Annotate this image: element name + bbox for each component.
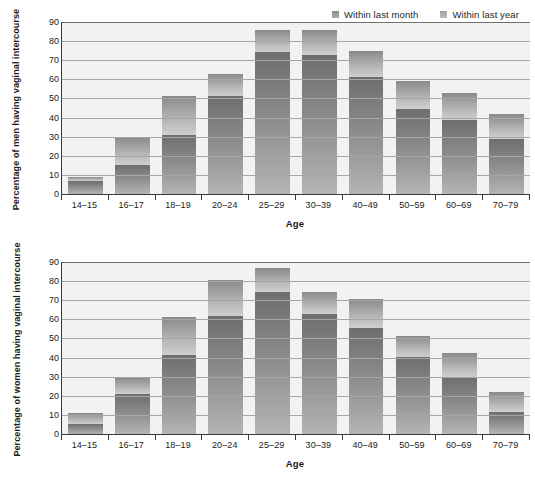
stacked-bar [489,114,524,194]
chart-panel-men: Percentage of men having vaginal interco… [0,22,535,252]
x-axis-tick-labels-men: 14–1516–1718–1920–2425–2930–3940–4950–59… [61,200,529,210]
bar-segment-within-last-month [489,139,524,194]
bar-segment-within-last-year [208,74,243,96]
bar-slot [249,22,296,194]
y-tick-60: 60 [34,75,59,84]
gridline-60 [62,79,530,80]
y-tick-30: 30 [34,132,59,141]
bar-segment-within-last-year [302,30,337,56]
bar-segment-within-last-month [349,328,384,434]
y-tick-10: 10 [34,410,59,419]
bar-segment-within-last-year [396,81,431,109]
bar-slot [202,262,249,434]
stacked-bar [68,177,103,194]
x-tick [529,195,530,200]
bar-slot [202,22,249,194]
stacked-bar [302,30,337,194]
x-tick-label: 70–79 [482,440,529,450]
y-tick-90: 90 [34,18,59,27]
chart-legend: Within last month Within last year [0,6,527,22]
bar-segment-within-last-year [162,96,197,135]
gridline-20 [62,156,530,157]
plot-area-men [61,22,530,195]
x-tick-label: 40–49 [342,440,389,450]
plot-wrap-women: 0102030405060708090 14–1516–1718–1920–24… [34,262,529,444]
bar-segment-within-last-month [115,165,150,194]
x-tick-label: 14–15 [61,200,108,210]
x-tick-label: 25–29 [248,200,295,210]
y-tick-50: 50 [34,94,59,103]
x-tick-label: 50–59 [389,200,436,210]
chart-panel-women: Percentage of women having vaginal inter… [0,262,535,498]
gridline-90 [62,22,530,23]
stacked-bar [68,413,103,434]
bar-segment-within-last-month [208,316,243,434]
x-tick-label: 40–49 [342,200,389,210]
x-tick-label: 18–19 [155,200,202,210]
bar-slot [436,22,483,194]
bar-slot [390,22,437,194]
bar-segment-within-last-month [162,355,197,434]
gridline-50 [62,98,530,99]
x-tick-label: 20–24 [201,440,248,450]
bar-slot [109,262,156,434]
bar-segment-within-last-year [349,51,384,78]
y-axis-tick-labels-women: 0102030405060708090 [34,262,59,434]
stacked-bar [442,93,477,194]
bar-slot [296,262,343,434]
gridline-40 [62,358,530,359]
bar-segment-within-last-year [208,280,243,315]
y-tick-60: 60 [34,315,59,324]
bar-slot [483,22,530,194]
plot-area-women [61,262,530,435]
x-axis-title-women: Age [61,458,529,469]
bar-slot [156,22,203,194]
legend-label-within-last-year: Within last year [452,9,519,20]
gridline-20 [62,396,530,397]
bar-segment-within-last-month [442,120,477,194]
y-tick-70: 70 [34,56,59,65]
bar-slot [483,262,530,434]
x-tick-label: 70–79 [482,200,529,210]
x-axis-title-men: Age [61,218,529,229]
bar-slot [296,22,343,194]
legend-item-within-last-year: Within last year [440,9,519,20]
stacked-bar [115,378,150,434]
x-tick-label: 16–17 [108,200,155,210]
y-tick-0: 0 [34,190,59,199]
stacked-bar [349,51,384,194]
bar-segment-within-last-month [396,109,431,194]
y-tick-40: 40 [34,113,59,122]
plot-wrap-men: 0102030405060708090 14–1516–1718–1920–24… [34,22,529,204]
bar-slot [109,22,156,194]
y-tick-70: 70 [34,296,59,305]
bar-segment-within-last-month [302,55,337,194]
x-tick-label: 14–15 [61,440,108,450]
y-tick-40: 40 [34,353,59,362]
bar-segment-within-last-month [255,52,290,194]
stacked-bar [396,336,431,434]
gridline-80 [62,281,530,282]
gridline-30 [62,377,530,378]
stacked-bar [208,74,243,194]
bar-group-men [62,22,530,194]
bar-segment-within-last-month [302,314,337,434]
x-tick-label: 20–24 [201,200,248,210]
bar-segment-within-last-year [442,353,477,377]
bar-slot [156,262,203,434]
stacked-bar [302,292,337,434]
bar-segment-within-last-year [442,93,477,121]
stacked-bar [162,96,197,194]
bar-segment-within-last-month [255,292,290,434]
bar-slot [249,262,296,434]
legend-item-within-last-month: Within last month [332,9,419,20]
x-tick-label: 25–29 [248,440,295,450]
bar-slot [62,22,109,194]
bar-segment-within-last-month [162,135,197,194]
y-axis-title-women-text: Percentage of women having vaginal inter… [12,242,23,456]
x-tick-label: 16–17 [108,440,155,450]
bar-slot [436,262,483,434]
x-tick-label: 30–39 [295,200,342,210]
bar-segment-within-last-year [349,299,384,328]
gridline-50 [62,338,530,339]
